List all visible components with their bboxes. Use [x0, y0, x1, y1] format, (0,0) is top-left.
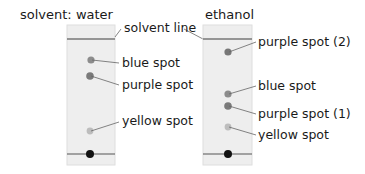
water-strip-title: solvent: water	[20, 7, 113, 22]
blue-spot-ethanol	[224, 90, 231, 97]
purple-spot-1-label-ethanol: purple spot (1)	[258, 107, 351, 121]
purple-spot-1-ethanol	[224, 102, 232, 110]
leader-solvent-line	[115, 29, 121, 37]
water-strip	[67, 25, 203, 165]
purple-spot-label-water: purple spot	[122, 78, 193, 92]
yellow-spot-label-ethanol: yellow spot	[258, 128, 329, 142]
yellow-spot-label-water: yellow spot	[122, 114, 193, 128]
purple-spot-water	[86, 72, 94, 80]
ethanol-strip	[203, 25, 256, 165]
origin-dot-water	[86, 150, 94, 158]
yellow-spot-water	[87, 128, 94, 135]
blue-spot-label-ethanol: blue spot	[258, 79, 316, 93]
origin-dot-ethanol	[224, 150, 232, 158]
blue-spot-label-water: blue spot	[122, 56, 180, 70]
ethanol-strip-title: ethanol	[205, 7, 254, 22]
purple-spot-2-ethanol	[224, 48, 231, 55]
purple-spot-2-label-ethanol: purple spot (2)	[258, 35, 351, 49]
solvent-line-label: solvent line	[124, 21, 196, 35]
paper-strip-water	[67, 25, 115, 165]
